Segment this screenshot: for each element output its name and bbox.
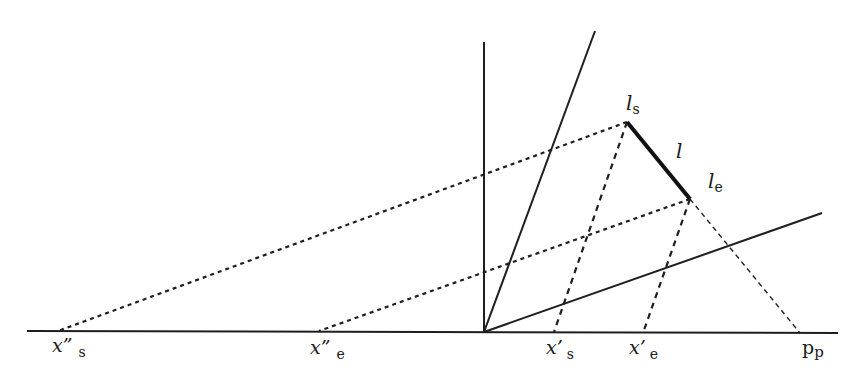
label-x1-e-main: x’ — [629, 336, 646, 358]
label-x2-s: x”s — [52, 334, 86, 360]
label-l-e-sub: e — [714, 179, 722, 195]
label-p-p-main: p — [802, 336, 814, 358]
label-x2-e-main: x” — [310, 336, 330, 358]
label-x2-s-main: x” — [52, 334, 72, 356]
baseline-axis — [27, 331, 838, 333]
extension-le-to-pp — [690, 199, 800, 333]
label-l-s-sub: s — [632, 101, 639, 117]
projection-ls-to-x2s — [58, 122, 627, 331]
projection-le-to-x2e — [319, 199, 690, 331]
label-x1-e-sub: e — [650, 346, 658, 362]
label-x2-e-sub: e — [336, 346, 344, 362]
label-p-p: pp — [802, 336, 824, 361]
steep-axis — [484, 31, 595, 332]
label-l-s: ls — [626, 91, 640, 117]
label-x1-s: x’s — [546, 336, 574, 362]
label-x1-s-main: x’ — [546, 336, 563, 358]
label-p-p-sub: p — [814, 343, 824, 361]
label-l: l — [676, 139, 682, 163]
label-x2-s-sub: s — [78, 344, 85, 360]
projection-ls-to-x1s — [554, 122, 627, 332]
label-x1-e: x’e — [629, 336, 658, 362]
label-l-e: le — [708, 169, 723, 195]
projection-le-to-x1e — [643, 199, 690, 333]
label-x2-e: x”e — [310, 336, 345, 362]
label-x1-s-sub: s — [567, 346, 574, 362]
projection-diagram: ls l le x”s x”e x’s x’e pp — [0, 0, 858, 380]
shallow-axis — [484, 213, 822, 332]
